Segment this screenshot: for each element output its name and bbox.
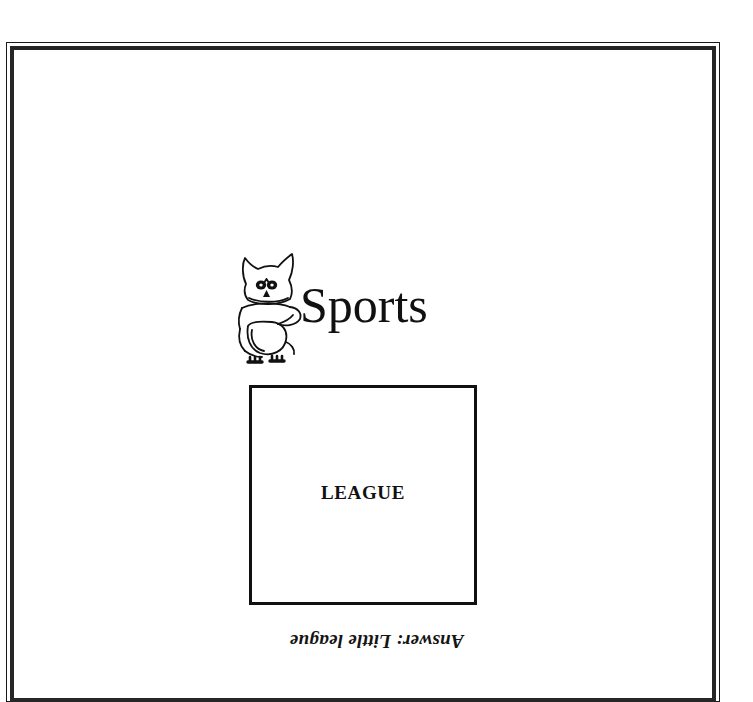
- sports-logo: Sports: [228, 250, 458, 368]
- owl-mascot-line-drawing-icon: [228, 250, 306, 368]
- brand-wordmark: Sports: [300, 280, 428, 330]
- puzzle-answer-box[interactable]: LEAGUE: [249, 385, 477, 605]
- answer-key-text: Answer: Little league: [289, 630, 463, 652]
- puzzle-answer-word: LEAGUE: [252, 482, 474, 504]
- answer-key: Answer: Little league: [0, 630, 753, 652]
